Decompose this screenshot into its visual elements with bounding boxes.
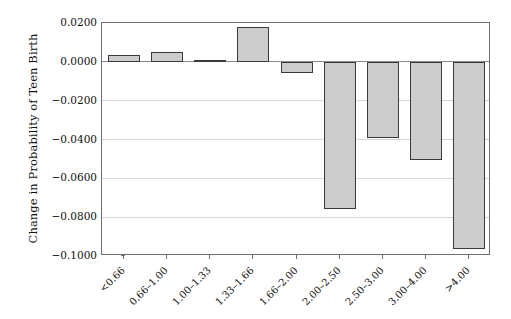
bar[interactable] <box>237 27 269 62</box>
bar[interactable] <box>410 62 442 160</box>
x-axis-tick-mark <box>468 255 469 259</box>
y-axis-tick-label: 0.0000 <box>27 56 97 66</box>
y-axis-tick-label: −0.0600 <box>27 172 97 182</box>
y-axis-tick-label: −0.0400 <box>27 134 97 144</box>
x-axis-tick-mark <box>339 255 340 259</box>
x-axis-tick-mark <box>425 255 426 259</box>
bar[interactable] <box>324 62 356 210</box>
gridline <box>102 178 489 179</box>
bar[interactable] <box>194 60 226 62</box>
x-axis-tick-mark <box>296 255 297 259</box>
y-axis-tick-labels: 0.02000.0000−0.0200−0.0400−0.0600−0.0800… <box>24 22 97 255</box>
x-axis-tick-mark <box>123 255 124 259</box>
plot-area <box>101 22 490 255</box>
y-axis-tick-label: −0.1000 <box>27 250 97 260</box>
bar[interactable] <box>281 62 313 73</box>
y-axis-tick-label: −0.0800 <box>27 211 97 221</box>
x-axis-tick-mark <box>166 255 167 259</box>
bar[interactable] <box>453 62 485 249</box>
x-axis-tick-mark <box>209 255 210 259</box>
x-axis-tick-mark <box>252 255 253 259</box>
gridline <box>102 217 489 218</box>
x-axis-tick-mark <box>382 255 383 259</box>
y-axis-tick-label: 0.0200 <box>27 17 97 27</box>
bar-chart: Change in Probability of Teen Birth 0.02… <box>0 0 511 319</box>
y-axis-tick-label: −0.0200 <box>27 95 97 105</box>
bar[interactable] <box>367 62 399 138</box>
bar[interactable] <box>108 55 140 62</box>
bar[interactable] <box>151 52 183 62</box>
